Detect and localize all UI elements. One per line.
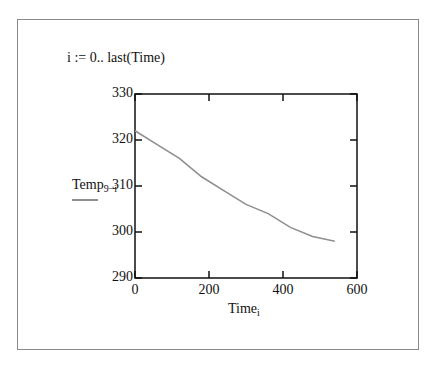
x-tick-label: 600	[337, 283, 377, 297]
temp-series-line	[135, 131, 335, 241]
y-axis-title-text: Temp	[72, 177, 104, 192]
x-axis-title-subscript: i	[257, 307, 260, 318]
y-tick-label: 300	[93, 224, 133, 238]
x-axis-title-text: Time	[228, 301, 257, 316]
x-tick-label: 200	[189, 283, 229, 297]
axis-ticks	[135, 94, 357, 278]
plot-area[interactable]	[0, 0, 427, 368]
x-axis-title: Timei	[228, 301, 260, 318]
y-tick-label: 330	[93, 86, 133, 100]
y-tick-label: 320	[93, 132, 133, 146]
plot-border	[135, 94, 357, 278]
y-axis-title: Temp9−i	[72, 177, 117, 194]
x-tick-label: 400	[263, 283, 303, 297]
y-axis-title-subscript: 9−i	[104, 183, 117, 194]
legend-line-swatch	[72, 199, 98, 201]
y-tick-label: 290	[93, 270, 133, 284]
x-tick-label: 0	[115, 283, 155, 297]
